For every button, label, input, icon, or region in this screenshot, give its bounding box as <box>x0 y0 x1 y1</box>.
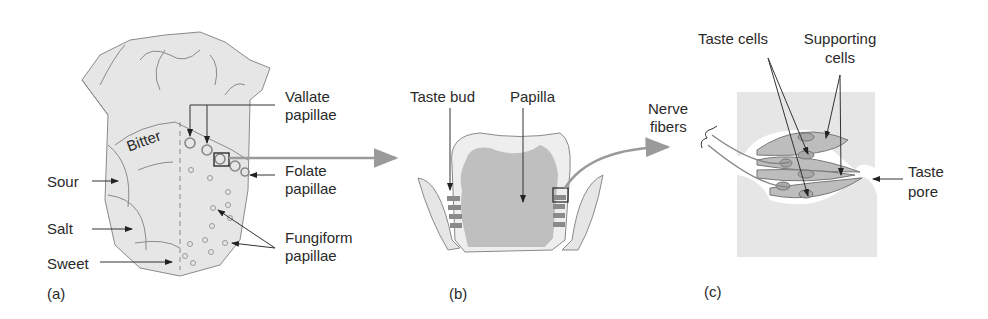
zoom-arrow-b-to-c <box>565 147 668 188</box>
label-nerve-line1: Nerve <box>648 100 688 117</box>
label-vallate-line1: Vallate <box>285 88 330 105</box>
label-taste-bud: Taste bud <box>410 88 475 105</box>
panel-tag-c: (c) <box>704 283 722 300</box>
taste-anatomy-diagram: Bitter Sour Salt Sweet Vallate papillae … <box>0 0 988 319</box>
papilla-illustration <box>418 133 603 252</box>
label-pore-line2: pore <box>908 183 938 200</box>
region-label-sweet: Sweet <box>47 255 89 272</box>
region-label-sour: Sour <box>47 173 79 190</box>
label-supporting-line1: Supporting <box>800 30 880 47</box>
region-label-salt: Salt <box>47 220 73 237</box>
label-supporting-line2: cells <box>800 49 880 66</box>
panel-tag-a: (a) <box>47 285 65 302</box>
label-nerve-line2: fibers <box>650 118 687 135</box>
label-fungiform-line1: Fungiform <box>285 229 353 246</box>
diagram-graphics <box>0 0 988 319</box>
label-folate-line2: papillae <box>285 180 337 197</box>
panel-tag-b: (b) <box>449 285 467 302</box>
tongue-illustration <box>82 32 270 276</box>
label-folate-line1: Folate <box>285 162 327 179</box>
taste-bud-illustration <box>701 92 877 257</box>
label-pore-line1: Taste <box>908 163 944 180</box>
label-papilla: Papilla <box>510 88 555 105</box>
label-taste-cells: Taste cells <box>698 30 768 47</box>
label-fungiform-line2: papillae <box>285 247 337 264</box>
label-vallate-line2: papillae <box>285 106 337 123</box>
